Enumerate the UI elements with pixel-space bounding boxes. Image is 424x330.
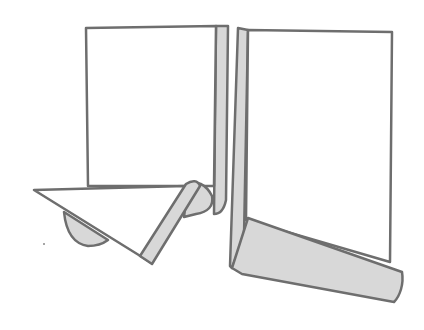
left-panel-sheet: [86, 26, 216, 186]
illustration-canvas: [0, 0, 424, 330]
folded-panels-drawing: [0, 0, 424, 330]
speck: [43, 243, 45, 245]
